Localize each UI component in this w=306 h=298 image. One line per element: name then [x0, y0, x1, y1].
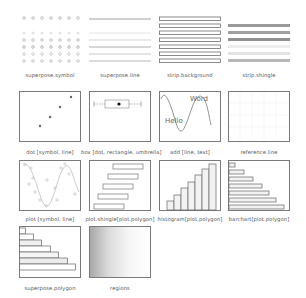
panel-label: dot [symbol, line]	[11, 149, 89, 155]
histogram-graphic	[159, 160, 221, 211]
panel-label: histogram[plot.polygon]	[151, 216, 229, 222]
panel-label: plot.shingle[plot.polygon]	[81, 216, 159, 222]
superpose-line-graphic	[89, 14, 151, 66]
strip-shingle-graphic	[228, 14, 290, 66]
panel-label: regions	[81, 285, 159, 291]
panel-label: add [line, text]	[151, 149, 229, 155]
box-graphic	[89, 91, 151, 142]
panel-label: superpose.line	[81, 72, 159, 78]
reference-line-graphic	[228, 91, 290, 142]
panel-label: superpose.polygon	[11, 285, 89, 291]
word-text: Word	[190, 95, 208, 103]
panel-label: box [dot, rectangle, umbrella]	[81, 149, 159, 155]
panel-label: barchart[plot.polygon]	[220, 216, 298, 222]
panel-label: superpose.symbol	[11, 72, 89, 78]
add-graphic: Word Hello	[159, 91, 221, 142]
hello-text: Hello	[165, 117, 183, 125]
panel-label: strip.shingle	[220, 72, 298, 78]
barchart-graphic	[228, 160, 290, 211]
panel-label: reference.line	[220, 149, 298, 155]
superpose-symbol-graphic	[19, 14, 81, 66]
plot-graphic	[19, 160, 81, 211]
panel-label: strip.background	[151, 72, 229, 78]
dot-graphic	[19, 91, 81, 142]
strip-background-graphic	[159, 14, 221, 66]
panel-label: plot [symbol, line]	[11, 216, 89, 222]
plot-shingle-graphic	[89, 160, 151, 211]
regions-frame	[89, 226, 151, 278]
superpose-polygon-graphic	[19, 226, 81, 278]
